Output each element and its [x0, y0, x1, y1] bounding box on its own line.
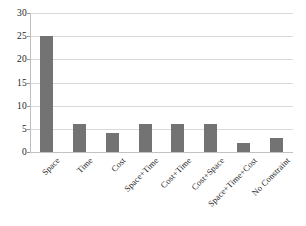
- y-axis-tick-label: 5: [1, 124, 27, 134]
- bar-chart: 051015202530 SpaceTimeCostSpace+TimeCost…: [0, 0, 306, 226]
- x-axis-tick-label: Time: [75, 156, 94, 175]
- bar: [73, 124, 86, 152]
- y-axis-tick-mark: [27, 152, 30, 153]
- y-axis-tick-label: 0: [1, 148, 27, 158]
- bar: [270, 138, 283, 152]
- y-axis-tick-label: 15: [1, 78, 27, 88]
- bar: [171, 124, 184, 152]
- y-axis-tick-label: 25: [1, 32, 27, 42]
- axis-baseline: [30, 152, 293, 153]
- bar: [106, 133, 119, 152]
- y-axis-tick-label: 10: [1, 101, 27, 111]
- x-axis-tick-label: Space: [41, 156, 62, 177]
- bars-group: [30, 13, 293, 152]
- y-axis-tick-labels: 051015202530: [0, 13, 27, 152]
- bar: [237, 143, 250, 152]
- bar: [139, 124, 152, 152]
- y-axis-tick-label: 20: [1, 55, 27, 65]
- bar: [40, 36, 53, 152]
- x-axis-tick-label: Cost: [110, 156, 128, 174]
- x-axis-tick-label: Space+Time: [123, 156, 161, 194]
- bar: [204, 124, 217, 152]
- x-axis-tick-label: Cost+Time: [159, 156, 193, 190]
- y-axis-tick-label: 30: [1, 9, 27, 19]
